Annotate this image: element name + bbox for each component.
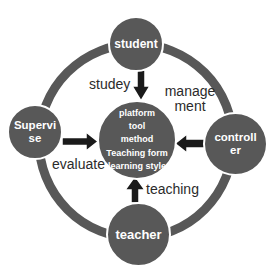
node-controller: controll er [203,112,268,176]
arrow-student-to-center [132,70,150,101]
node-student-label: student [114,37,157,51]
center-line-tool: tool [129,120,146,133]
diagram-canvas: student Supervi se controll er teacher p… [0,0,269,273]
node-teacher: teacher [106,202,171,267]
arrow-controller-to-center [175,134,205,153]
node-supervise-label-line1: Supervi [14,119,56,132]
center-line-method: method [121,133,154,146]
edge-label-management: manage ment [164,84,216,114]
node-controller-label-line2: er [230,144,241,157]
edge-label-evaluate: evaluate [52,156,105,172]
node-teacher-label: teacher [115,227,161,242]
arrow-supervise-to-center [62,132,98,151]
edge-label-management-line1: manage [165,83,216,99]
center-line-learning-style: learning style [108,160,166,173]
center-line-platform: platform [119,107,155,120]
node-supervise: Supervi se [7,104,63,160]
node-student: student [108,16,164,72]
edge-label-study: studey [89,76,130,92]
edge-label-management-line2: ment [174,98,205,114]
node-controller-label-line1: controll [214,131,256,144]
arrow-teacher-to-center [125,176,145,203]
center-line-teaching-form: Teaching form [106,147,167,160]
edge-label-teaching: teaching [146,181,199,197]
node-supervise-label-line2: se [29,132,42,145]
